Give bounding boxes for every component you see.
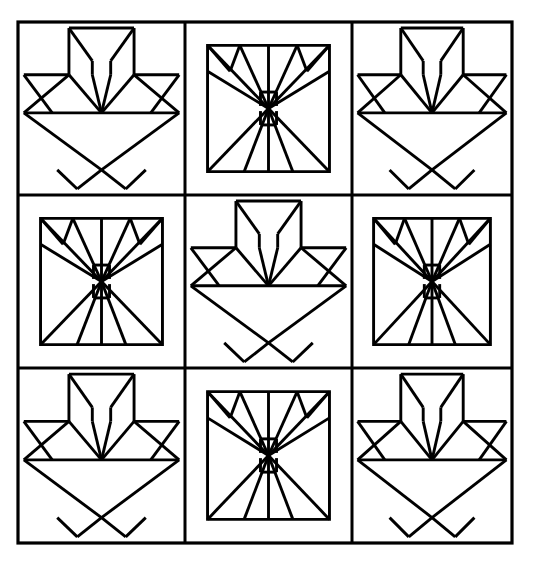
- illustration-canvas: [0, 0, 536, 561]
- quilt-block-drawing: [0, 0, 536, 561]
